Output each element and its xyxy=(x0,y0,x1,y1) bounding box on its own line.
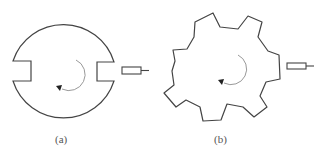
toothed-gear xyxy=(164,13,280,121)
rotation-arrow-a xyxy=(56,60,85,91)
sensor-b xyxy=(287,63,314,69)
diagram-canvas xyxy=(0,0,324,156)
rotation-arrow-b xyxy=(218,55,247,85)
panel-b-label: (b) xyxy=(214,133,227,145)
notched-disc xyxy=(13,25,114,118)
sensor-a xyxy=(122,67,149,74)
panel-b-gear xyxy=(164,13,280,121)
panel-a-label: (a) xyxy=(55,133,67,145)
panel-a-disc xyxy=(13,25,114,118)
